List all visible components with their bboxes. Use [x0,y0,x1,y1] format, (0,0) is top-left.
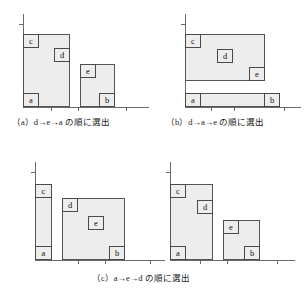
panel-c-right-cell-e: e [223,220,239,234]
figure-container: c d a e b （a）d→e→a の順に選出 c d e a b （b）d→… [0,0,304,293]
panel-b-x-tick-3 [284,107,285,111]
panel-a-cell-a: a [23,93,39,107]
panel-c-right-cell-b: b [244,246,260,260]
panel-c-left-cell-d: d [62,198,78,212]
panel-c-right-x-tick-2 [227,260,228,264]
panel-c-left-cell-a: a [35,246,52,260]
panel-c-right-cell-d: d [197,200,213,214]
panel-c-left-cell-b: b [109,246,125,260]
panel-a-x-axis [23,107,149,108]
panel-b-cell-b: b [264,93,280,107]
panel-b-cell-c: c [185,34,201,48]
panel-c-right-cell-c: c [170,184,186,198]
panel-a-cell-e: e [80,64,96,78]
panel-c-caption: （c）a→e→d の順に選出 [92,271,190,283]
panel-c-left-cell-e: e [88,216,104,230]
panel-c-left-x-tick-1 [78,260,79,264]
panel-c-right-x-tick-3 [277,260,278,264]
panel-a-x-tick-1 [51,107,52,111]
panel-a-cell-d: d [54,48,70,62]
panel-b-cell-a: a [185,93,201,107]
panel-a-caption: （a）d→e→a の順に選出 [12,115,110,127]
panel-c-right-cell-a: a [170,246,186,260]
panel-b-x-tick-1 [211,107,212,111]
panel-c-left-x-axis [35,260,165,261]
panel-c-right: c d a e b [165,158,304,263]
panel-a-cell-b: b [99,93,115,107]
panel-a-cell-c: c [23,34,39,48]
panel-c-left-x-tick-2 [105,260,106,264]
panel-b-caption: （b）d→a→e の順に選出 [166,115,264,127]
panel-b-y-tick [181,24,185,25]
panel-b-cell-d: d [217,49,233,63]
panel-b-x-tick-2 [234,107,235,111]
panel-c-left-x-tick-3 [150,260,151,264]
panel-a: c d a e b [10,12,150,112]
panel-b: c d e a b [162,12,302,112]
panel-c-right-y-tick [166,172,170,173]
panel-b-cell-e: e [249,67,265,81]
panel-a-x-tick-2 [78,107,79,111]
panel-a-y-tick [19,24,23,25]
panel-c-right-x-tick-1 [200,260,201,264]
panel-a-x-tick-3 [126,107,127,111]
panel-c-left-y-tick [31,172,35,173]
panel-c-left-cell-c: c [35,184,52,198]
panel-c-left: c a d e b [30,158,170,263]
